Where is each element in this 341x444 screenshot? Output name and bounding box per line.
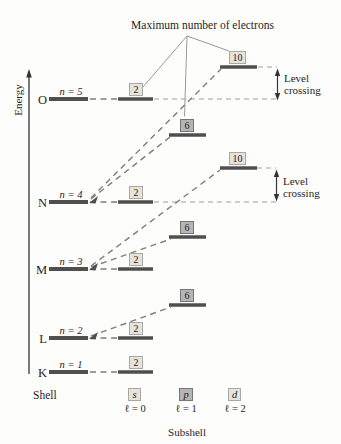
- level-crossing-text-line1: Level: [284, 73, 321, 85]
- max-electrons-box-2p: 6: [180, 289, 194, 302]
- pointer-line-to-d-box: [187, 36, 229, 51]
- energy-level-diagram: Maximum number of electrons Energy O N M…: [0, 0, 341, 444]
- level-crossing-annotation-bottom: Level crossing: [283, 176, 320, 199]
- level-crossing-text-line1: Level: [283, 176, 320, 188]
- max-electrons-box-3p: 6: [180, 221, 194, 234]
- subshell-symbol-d: d: [228, 388, 241, 401]
- max-electrons-box-3s: 2: [129, 253, 143, 266]
- arrowhead-up-top-icon: [275, 69, 280, 77]
- shell-label-L: L: [31, 333, 47, 346]
- shell-label-O: O: [31, 94, 47, 107]
- pointer-line-to-s-box: [143, 36, 187, 87]
- l-value-p: ℓ = 1: [168, 403, 204, 414]
- energy-axis-label: Energy: [12, 78, 24, 122]
- energy-axis-arrowhead-icon: [26, 69, 32, 78]
- subshell-axis-label: Subshell: [147, 426, 227, 438]
- diagram-lines: [0, 0, 341, 444]
- n-label-4: n = 4: [50, 189, 92, 200]
- arrowhead-up-bottom-icon: [274, 170, 279, 178]
- n-label-3: n = 3: [50, 256, 92, 267]
- shell-axis-label: Shell: [33, 389, 57, 401]
- n-label-1: n = 1: [50, 359, 92, 370]
- figure-title: Maximum number of electrons: [119, 19, 286, 31]
- max-electrons-box-2s: 2: [129, 322, 143, 335]
- max-electrons-box-4p: 6: [180, 119, 194, 132]
- max-electrons-box-3d: 10: [229, 152, 246, 165]
- pointer-line-to-p-box: [185, 36, 188, 117]
- max-electrons-box-4d: 10: [229, 51, 246, 64]
- l-value-s: ℓ = 0: [117, 403, 153, 414]
- max-electrons-box-5s: 2: [129, 83, 143, 96]
- max-electrons-box-4s: 2: [129, 186, 143, 199]
- n-label-5: n = 5: [50, 86, 92, 97]
- max-electrons-box-1s: 2: [129, 356, 143, 369]
- shell-label-N: N: [31, 197, 47, 210]
- l-value-d: ℓ = 2: [217, 403, 253, 414]
- level-crossing-text-line2: crossing: [284, 85, 321, 97]
- level-crossing-text-line2: crossing: [283, 188, 320, 200]
- shell-label-M: M: [31, 264, 47, 277]
- arrowhead-down-bottom-icon: [274, 194, 279, 202]
- level-crossing-annotation-top: Level crossing: [284, 73, 321, 96]
- subshell-symbol-p: p: [179, 388, 193, 401]
- shell-label-K: K: [31, 367, 47, 380]
- subshell-symbol-s: s: [128, 388, 141, 401]
- n-label-2: n = 2: [50, 325, 92, 336]
